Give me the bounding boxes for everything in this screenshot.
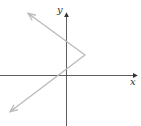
y-axis-label: y	[57, 4, 63, 15]
graph-canvas	[0, 0, 141, 126]
x-axis-label: x	[130, 76, 136, 87]
graph-figure: y x	[0, 0, 141, 126]
v-curve	[11, 14, 85, 111]
lower-arrow-icon	[11, 108, 15, 111]
upper-arrow-icon	[29, 14, 33, 17]
